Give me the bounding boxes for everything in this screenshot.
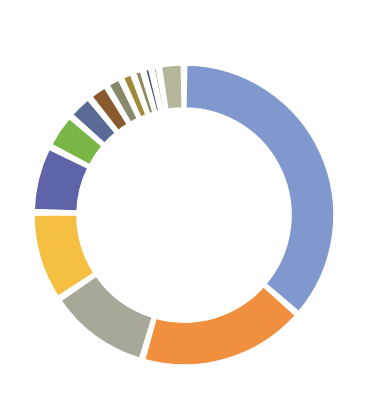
donut-chart: Segment 1 — 36.4%Segment 2 — 18.1%Segmen… (0, 0, 371, 412)
donut-chart-container: Segment 1 — 36.4%Segment 2 — 18.1%Segmen… (0, 0, 371, 412)
